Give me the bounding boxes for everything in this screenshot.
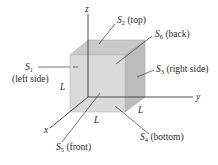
y-axis-label: y (195, 92, 201, 102)
edge-length-bottom: L (93, 115, 99, 125)
svg-text:S3 (right side): S3 (right side) (156, 64, 208, 75)
label-s1: S1 (left side) (12, 62, 49, 85)
edge-length-left: L (59, 82, 65, 92)
svg-text:S2 (top): S2 (top) (117, 15, 146, 26)
leader-s4 (115, 106, 149, 134)
label-s4: S4 (bottom) (140, 132, 184, 143)
label-s2: S2 (top) (117, 15, 146, 26)
label-s5: S5 (front) (56, 142, 91, 153)
svg-text:S4 (bottom): S4 (bottom) (140, 132, 184, 143)
label-s6: S6 (back) (155, 29, 190, 40)
svg-text:(left side): (left side) (12, 74, 49, 85)
svg-text:S5 (front): S5 (front) (56, 142, 91, 153)
x-axis-label: x (43, 125, 49, 135)
svg-text:S6 (back): S6 (back) (155, 29, 190, 40)
label-s3: S3 (right side) (156, 64, 208, 75)
edge-length-depth: L (137, 105, 143, 115)
z-axis-label: z (84, 4, 89, 14)
svg-text:S1: S1 (25, 62, 33, 73)
cube-diagram: z y x L L L S1 (left side) S2 (top) S6 (… (0, 0, 218, 165)
x-axis (50, 97, 88, 128)
